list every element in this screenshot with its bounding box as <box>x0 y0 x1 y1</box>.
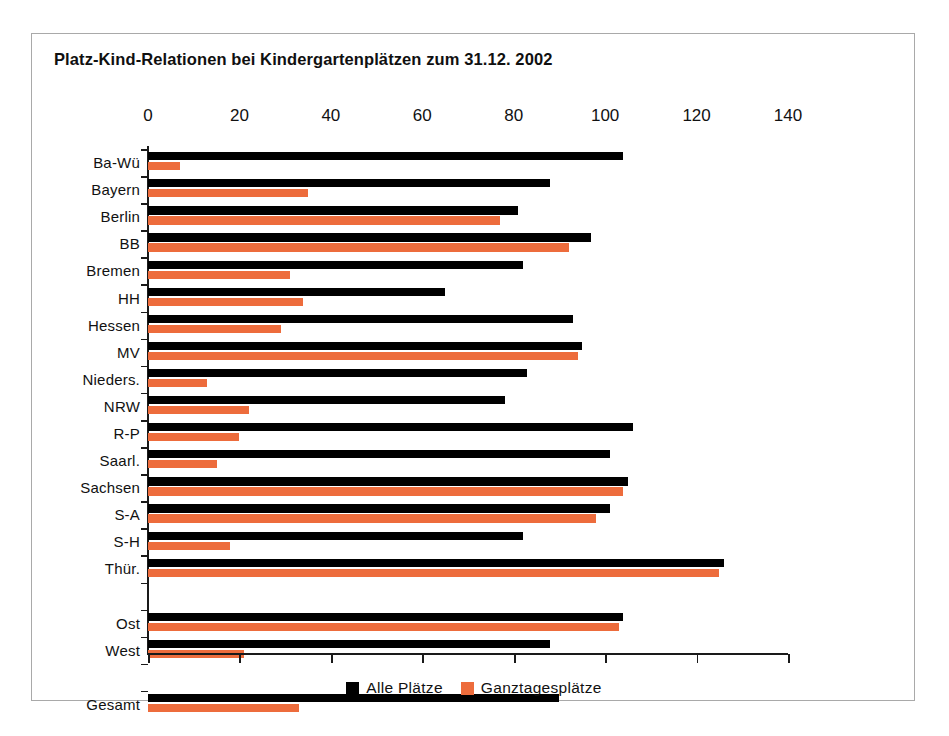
x-axis-tick-40: 40 <box>321 106 340 126</box>
bar-alle-plaetze <box>148 179 550 187</box>
bar-alle-plaetze <box>148 342 582 350</box>
x-axis-tick-0: 0 <box>143 106 152 126</box>
bar-row <box>148 203 788 230</box>
bar-alle-plaetze <box>148 450 610 458</box>
y-axis-tick-mark <box>141 474 148 476</box>
y-axis-label-bayern: Bayern <box>32 176 148 203</box>
x-axis-tick-mark <box>331 654 333 663</box>
bar-alle-plaetze <box>148 532 523 540</box>
bar-alle-plaetze <box>148 423 633 431</box>
bar-row <box>148 284 788 311</box>
bar-alle-plaetze <box>148 261 523 269</box>
bar-ganztagesplaetze <box>148 379 207 387</box>
y-axis-tick-mark <box>141 284 148 286</box>
bar-ganztagesplaetze <box>148 433 239 441</box>
legend-label: Alle Plätze <box>366 679 443 697</box>
bar-alle-plaetze <box>148 315 573 323</box>
y-axis-label-hessen: Hessen <box>32 312 148 339</box>
bar-ganztagesplaetze <box>148 162 180 170</box>
x-axis-tick-140: 140 <box>774 106 802 126</box>
y-axis-label-mv: MV <box>32 339 148 366</box>
legend-item-alle-plaetze[interactable]: Alle Plätze <box>346 679 443 697</box>
bar-ganztagesplaetze <box>148 352 578 360</box>
bar-ganztagesplaetze <box>148 704 299 712</box>
y-axis-label-hh: HH <box>32 284 148 311</box>
bar-ganztagesplaetze <box>148 271 290 279</box>
bar-ganztagesplaetze <box>148 623 619 631</box>
chart-frame: Platz-Kind-Relationen bei Kindergartenpl… <box>31 33 915 701</box>
bar-row <box>148 230 788 257</box>
x-axis-tick-mark <box>697 654 699 663</box>
x-axis-tick-mark <box>239 654 241 663</box>
bar-alle-plaetze <box>148 559 724 567</box>
bar-ganztagesplaetze <box>148 406 249 414</box>
y-axis-tick-mark <box>141 149 148 151</box>
bar-row <box>148 501 788 528</box>
legend-swatch-icon <box>346 682 359 695</box>
x-axis-tick-20: 20 <box>230 106 249 126</box>
y-axis-tick-mark <box>141 637 148 639</box>
y-axis-label-sh: S-H <box>32 528 148 555</box>
y-axis-tick-mark <box>141 366 148 368</box>
legend-item-ganztagesplaetze[interactable]: Ganztagesplätze <box>461 679 602 697</box>
bar-row <box>148 339 788 366</box>
bar-ganztagesplaetze <box>148 569 719 577</box>
bar-row <box>148 420 788 447</box>
x-axis-tick-mark <box>605 654 607 663</box>
bar-row <box>148 176 788 203</box>
y-axis-tick-mark <box>141 610 148 612</box>
x-axis-tick-mark <box>148 654 150 663</box>
y-axis-tick-mark <box>141 203 148 205</box>
bar-alle-plaetze <box>148 369 527 377</box>
y-axis-label-bremen: Bremen <box>32 257 148 284</box>
chart-legend: Alle PlätzeGanztagesplätze <box>32 679 916 697</box>
bar-alle-plaetze <box>148 206 518 214</box>
y-axis-label-sa: S-A <box>32 501 148 528</box>
y-axis-tick-mark <box>141 257 148 259</box>
y-axis-tick-mark <box>141 501 148 503</box>
y-axis-label-nrw: NRW <box>32 393 148 420</box>
bar-ganztagesplaetze <box>148 325 281 333</box>
y-axis-label-thür: Thür. <box>32 555 148 582</box>
bar-row <box>148 447 788 474</box>
y-axis-tick-mark <box>141 393 148 395</box>
y-axis-tick-mark <box>141 339 148 341</box>
y-axis-tick-mark <box>141 420 148 422</box>
bar-ganztagesplaetze <box>148 298 303 306</box>
bar-ganztagesplaetze <box>148 487 623 495</box>
x-axis-tick-120: 120 <box>682 106 710 126</box>
y-axis-label-ost: Ost <box>32 610 148 637</box>
bar-ganztagesplaetze <box>148 243 569 251</box>
bar-row <box>148 312 788 339</box>
bar-alle-plaetze <box>148 152 623 160</box>
x-axis-tick-60: 60 <box>413 106 432 126</box>
legend-swatch-icon <box>461 682 474 695</box>
y-axis-label-bawü: Ba-Wü <box>32 149 148 176</box>
bar-ganztagesplaetze <box>148 460 217 468</box>
bar-row <box>148 555 788 582</box>
bar-row <box>148 366 788 393</box>
y-axis-label-saarl: Saarl. <box>32 447 148 474</box>
y-axis-tick-mark <box>141 312 148 314</box>
bar-ganztagesplaetze <box>148 216 500 224</box>
bar-row <box>148 610 788 637</box>
bars-container <box>148 149 788 718</box>
y-axis-label-sachsen: Sachsen <box>32 474 148 501</box>
y-axis-tick-mark <box>141 583 148 585</box>
y-axis-tick-mark <box>141 555 148 557</box>
x-axis-tick-100: 100 <box>591 106 619 126</box>
bar-alle-plaetze <box>148 504 610 512</box>
bar-alle-plaetze <box>148 613 623 621</box>
y-axis-tick-mark <box>141 447 148 449</box>
y-axis-label-nieders: Nieders. <box>32 366 148 393</box>
y-axis-tick-mark <box>141 176 148 178</box>
x-axis-tick-mark <box>514 654 516 663</box>
bar-row <box>148 528 788 555</box>
bar-row <box>148 583 788 610</box>
y-axis-tick-mark <box>141 664 148 666</box>
bar-row <box>148 637 788 664</box>
x-axis-tick-mark <box>422 654 424 663</box>
y-axis-tick-mark <box>141 528 148 530</box>
bar-alle-plaetze <box>148 288 445 296</box>
bar-alle-plaetze <box>148 233 591 241</box>
